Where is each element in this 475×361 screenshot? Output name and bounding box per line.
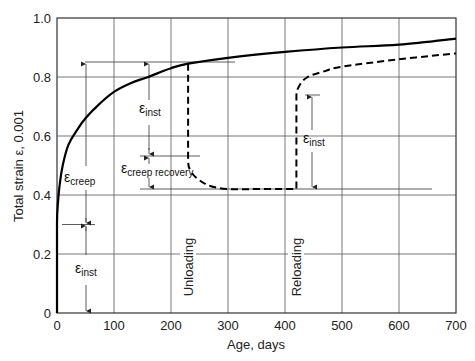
y-axis-label: Total strain ε, 0.001 <box>11 110 26 222</box>
label-unloading: Unloading <box>181 238 196 297</box>
x-tick-labels: 0100200300400500600700 <box>53 318 466 333</box>
label-eps-creep: εcreep <box>64 169 96 187</box>
x-axis-label: Age, days <box>227 337 285 352</box>
x-tick-label: 300 <box>217 318 239 333</box>
y-tick-label: 0.6 <box>33 129 51 144</box>
x-tick-label: 500 <box>331 318 353 333</box>
x-tick-label: 100 <box>103 318 125 333</box>
x-tick-label: 400 <box>274 318 296 333</box>
label-reloading: Reloading <box>289 238 304 297</box>
x-tick-label: 600 <box>388 318 410 333</box>
creep-strain-chart: 0100200300400500600700 00.20.40.60.81.0 … <box>0 0 475 361</box>
y-tick-label: 0.8 <box>33 70 51 85</box>
dimension-lines <box>62 62 432 311</box>
y-tick-label: 0.2 <box>33 247 51 262</box>
y-tick-labels: 00.20.40.60.81.0 <box>33 11 51 321</box>
x-tick-label: 700 <box>445 318 467 333</box>
x-tick-label: 200 <box>160 318 182 333</box>
x-tick-label: 0 <box>53 318 60 333</box>
sustained-load-curve <box>57 39 456 313</box>
label-eps-inst-middle: εinst <box>139 100 161 118</box>
y-tick-label: 1.0 <box>33 11 51 26</box>
label-eps-inst-right: εinst <box>303 130 325 148</box>
label-eps-creep-recovery: εcreep recovery <box>121 160 193 178</box>
y-tick-label: 0.4 <box>33 188 51 203</box>
y-tick-label: 0 <box>44 306 51 321</box>
label-eps-inst-bottom: εinst <box>75 260 97 278</box>
